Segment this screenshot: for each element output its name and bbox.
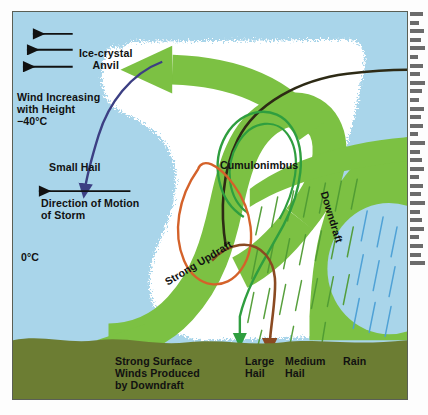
label-rain: Rain xyxy=(343,356,366,368)
label-large-hail: Large Hail xyxy=(245,356,274,380)
figure-illustration: Ice-crystal Anvil Wind Increasing with H… xyxy=(0,0,428,415)
label-cumulonimbus: Cumulonimbus xyxy=(220,160,298,172)
label-freezing-level: 0°C xyxy=(21,252,39,264)
label-small-hail: Small Hail xyxy=(49,162,101,174)
label-direction-of-motion: Direction of Motion of Storm xyxy=(41,198,139,222)
label-ice-crystal-anvil: Ice-crystal Anvil xyxy=(79,48,133,72)
label-medium-hail: Medium Hail xyxy=(285,356,326,380)
page-text-column xyxy=(410,12,428,342)
label-strong-surface-winds: Strong Surface Winds Produced by Downdra… xyxy=(115,356,200,392)
diagram-frame: Ice-crystal Anvil Wind Increasing with H… xyxy=(12,11,408,400)
label-wind-increasing: Wind Increasing with Height −40°C xyxy=(17,92,100,128)
